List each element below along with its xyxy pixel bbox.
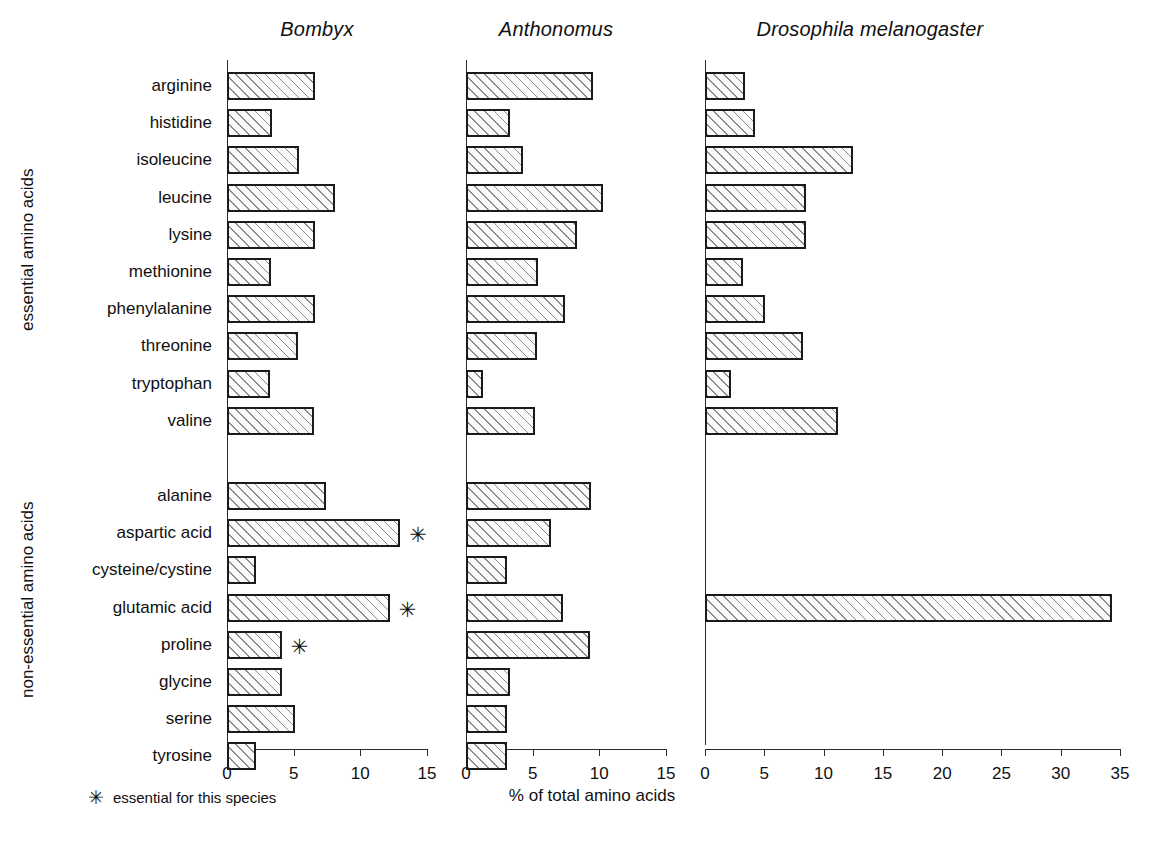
category-label: leucine bbox=[0, 189, 212, 206]
bar bbox=[227, 407, 314, 435]
bar bbox=[705, 72, 745, 100]
bar bbox=[705, 332, 803, 360]
x-axis-tick bbox=[942, 749, 943, 756]
bar bbox=[466, 742, 507, 770]
bar bbox=[466, 407, 535, 435]
bar bbox=[227, 594, 390, 622]
x-axis-tick-label: 25 bbox=[992, 764, 1011, 784]
category-label: methionine bbox=[0, 263, 212, 280]
panel-bombyx: 051015✳✳✳ bbox=[227, 60, 427, 750]
x-axis-tick-label: 15 bbox=[873, 764, 892, 784]
x-axis-tick-label: 0 bbox=[700, 764, 709, 784]
category-label: tryptophan bbox=[0, 375, 212, 392]
x-axis-tick bbox=[705, 749, 706, 756]
x-axis-tick bbox=[427, 749, 428, 756]
bar bbox=[466, 705, 507, 733]
bar bbox=[466, 482, 591, 510]
bar bbox=[227, 72, 315, 100]
bar bbox=[227, 146, 299, 174]
bar bbox=[466, 109, 510, 137]
bar bbox=[705, 407, 838, 435]
bar bbox=[466, 594, 563, 622]
x-axis-tick bbox=[1061, 749, 1062, 756]
category-label: valine bbox=[0, 412, 212, 429]
bar bbox=[466, 556, 507, 584]
category-label: glycine bbox=[0, 673, 212, 690]
bar bbox=[227, 295, 315, 323]
asterisk-icon: ✳ bbox=[88, 788, 104, 807]
footnote-label: essential for this species bbox=[113, 789, 276, 806]
bar bbox=[705, 370, 731, 398]
bar bbox=[466, 295, 565, 323]
footnote: ✳ essential for this species bbox=[88, 788, 276, 807]
category-label: phenylalanine bbox=[0, 300, 212, 317]
bar bbox=[227, 109, 272, 137]
bar bbox=[466, 184, 603, 212]
x-axis-tick-label: 10 bbox=[351, 764, 370, 784]
category-label: arginine bbox=[0, 77, 212, 94]
bar bbox=[466, 258, 538, 286]
x-axis-tick-label: 15 bbox=[418, 764, 437, 784]
bar bbox=[466, 146, 523, 174]
x-axis-tick bbox=[1001, 749, 1002, 756]
x-axis-tick-label: 10 bbox=[814, 764, 833, 784]
category-label: glutamic acid bbox=[0, 599, 212, 616]
panel-bombyx-x-axis bbox=[227, 749, 427, 750]
bar bbox=[227, 184, 335, 212]
panel-title-drosophila: Drosophila melanogaster bbox=[705, 18, 1035, 41]
category-label: serine bbox=[0, 710, 212, 727]
bar bbox=[227, 742, 256, 770]
category-label: cysteine/cystine bbox=[0, 561, 212, 578]
bar bbox=[227, 482, 326, 510]
bar bbox=[466, 668, 510, 696]
category-label: histidine bbox=[0, 114, 212, 131]
x-axis-tick bbox=[1120, 749, 1121, 756]
x-axis-tick-label: 5 bbox=[760, 764, 769, 784]
bar bbox=[705, 109, 755, 137]
category-label: tyrosine bbox=[0, 747, 212, 764]
x-axis-tick bbox=[883, 749, 884, 756]
x-axis-title: % of total amino acids bbox=[509, 786, 675, 806]
x-axis-tick-label: 10 bbox=[590, 764, 609, 784]
x-axis-tick-label: 30 bbox=[1051, 764, 1070, 784]
x-axis-tick-label: 5 bbox=[289, 764, 298, 784]
bar bbox=[227, 631, 282, 659]
asterisk-icon: ✳ bbox=[399, 599, 417, 620]
x-axis-tick bbox=[360, 749, 361, 756]
x-axis-tick bbox=[824, 749, 825, 756]
category-label: lysine bbox=[0, 226, 212, 243]
bar bbox=[466, 72, 593, 100]
amino-acid-composition-figure: Bombyx Anthonomus Drosophila melanogaste… bbox=[0, 0, 1156, 852]
bar bbox=[466, 519, 551, 547]
x-axis-tick-label: 5 bbox=[528, 764, 537, 784]
asterisk-icon: ✳ bbox=[409, 524, 427, 545]
bar bbox=[705, 221, 806, 249]
category-label: isoleucine bbox=[0, 151, 212, 168]
panel-drosophila-x-axis bbox=[705, 749, 1120, 750]
bar bbox=[466, 370, 483, 398]
category-label: alanine bbox=[0, 487, 212, 504]
panel-title-bombyx: Bombyx bbox=[227, 18, 407, 41]
category-label: proline bbox=[0, 636, 212, 653]
x-axis-tick bbox=[666, 749, 667, 756]
x-axis-tick bbox=[294, 749, 295, 756]
bar bbox=[705, 184, 806, 212]
bar bbox=[227, 668, 282, 696]
bar bbox=[227, 221, 315, 249]
bar bbox=[227, 705, 295, 733]
x-axis-tick bbox=[533, 749, 534, 756]
bar bbox=[227, 332, 298, 360]
x-axis-tick-label: 35 bbox=[1111, 764, 1130, 784]
category-label: threonine bbox=[0, 337, 212, 354]
bar bbox=[705, 594, 1112, 622]
panel-drosophila: 05101520253035 bbox=[705, 60, 1120, 750]
bar bbox=[705, 146, 853, 174]
panel-anthonomus: 051015 bbox=[466, 60, 666, 750]
bar bbox=[466, 631, 590, 659]
bar bbox=[227, 519, 400, 547]
category-label: aspartic acid bbox=[0, 524, 212, 541]
bar bbox=[705, 295, 765, 323]
x-axis-tick-label: 20 bbox=[933, 764, 952, 784]
x-axis-tick-label: 15 bbox=[657, 764, 676, 784]
x-axis-tick bbox=[599, 749, 600, 756]
